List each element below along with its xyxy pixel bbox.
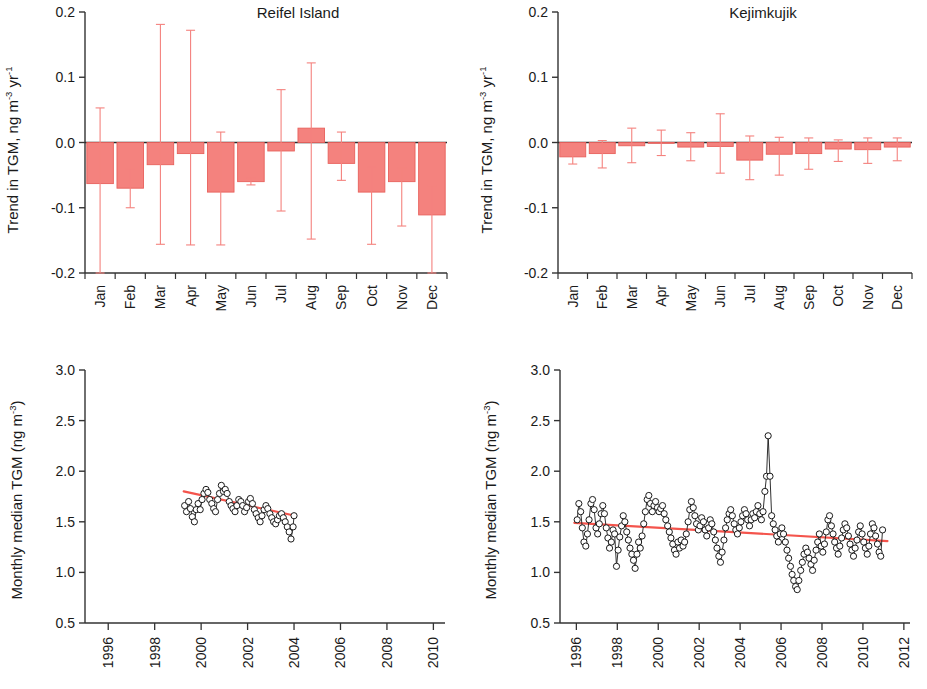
data-point xyxy=(682,539,688,545)
y-tick-label: 0.2 xyxy=(56,4,76,20)
data-point xyxy=(859,531,865,537)
y-tick-label: 0.1 xyxy=(529,69,549,85)
month-label-feb: Feb xyxy=(122,285,138,309)
figure-root: Reifel Island Trend in TGM, ng m-3 yr-1 … xyxy=(0,0,927,689)
reifel-ylabel-group: Trend in TGM, ng m-3 yr-1 xyxy=(3,67,21,234)
y-tick-label: -0.1 xyxy=(51,200,75,216)
kejimkujik-error-bars xyxy=(568,114,902,180)
data-point xyxy=(743,511,749,517)
month-label-oct: Oct xyxy=(830,285,846,307)
kejimkujik-ts-y-axis-label: Monthly median TGM (ng m-3) xyxy=(481,400,499,599)
data-point xyxy=(620,513,626,519)
reifel-ts-y-label-close: ) xyxy=(8,400,25,405)
month-label-mar: Mar xyxy=(624,285,640,309)
data-point xyxy=(576,500,582,506)
data-point xyxy=(613,563,619,569)
keji-ts-series xyxy=(574,433,886,593)
year-label-2000: 2000 xyxy=(193,637,209,668)
month-label-jul: Jul xyxy=(742,285,758,303)
data-point xyxy=(586,517,592,523)
data-point xyxy=(871,525,877,531)
year-label-2006: 2006 xyxy=(332,637,348,668)
data-point xyxy=(874,541,880,547)
y-tick-label: 0.1 xyxy=(56,69,76,85)
y-tick-label: 0.0 xyxy=(56,135,76,151)
kejimkujik-month-labels: JanFebMarAprMayJunJulAugSepOctNovDec xyxy=(565,285,906,312)
data-point xyxy=(736,525,742,531)
month-label-jul: Jul xyxy=(273,285,289,303)
reifel-ts-axes xyxy=(79,370,445,630)
data-point xyxy=(259,513,265,519)
data-point xyxy=(199,496,205,502)
panel-kejimkujik-trend-bar: Kejimkujik Trend in TGM, ng m-3 yr-1 Jan… xyxy=(470,0,927,340)
data-point xyxy=(779,525,785,531)
kejimkujik-y-axis-label: Trend in TGM, ng m-3 yr-1 xyxy=(477,67,495,234)
year-label-2004: 2004 xyxy=(286,637,302,668)
reifel-y-axis-label: Trend in TGM, ng m-3 yr-1 xyxy=(3,67,21,234)
data-point xyxy=(603,525,609,531)
data-point xyxy=(758,517,764,523)
data-point xyxy=(729,513,735,519)
data-point xyxy=(711,529,717,535)
data-point xyxy=(288,536,294,542)
data-point xyxy=(864,551,870,557)
month-label-jan: Jan xyxy=(565,285,581,308)
panel-kejimkujik-timeseries: Monthly median TGM (ng m-3) 199619982000… xyxy=(470,340,927,689)
reifel-trend-svg: Reifel Island Trend in TGM, ng m-3 yr-1 … xyxy=(0,0,470,340)
keji-ts-y-label-main: Monthly median TGM (ng m xyxy=(482,414,499,600)
y-tick-label: 2.5 xyxy=(531,413,551,429)
data-point xyxy=(798,567,804,573)
data-point xyxy=(632,565,638,571)
month-label-may: May xyxy=(213,285,229,311)
data-point xyxy=(712,537,718,543)
data-point xyxy=(212,509,218,515)
year-label-1996: 1996 xyxy=(100,637,116,668)
data-point xyxy=(249,500,255,506)
data-point xyxy=(765,433,771,439)
reifel-y-tick-labels: -0.2-0.10.00.10.2 xyxy=(51,4,75,281)
data-point xyxy=(794,587,800,593)
reifel-ts-x-tick-labels: 19961998200020022004200620082010 xyxy=(100,637,441,668)
data-point xyxy=(782,539,788,545)
kejimkujik-ylabel-group: Trend in TGM, ng m-3 yr-1 xyxy=(477,67,495,234)
data-point xyxy=(665,523,671,529)
data-point xyxy=(205,489,211,495)
data-point xyxy=(630,557,636,563)
year-label-2008: 2008 xyxy=(379,637,395,668)
data-point xyxy=(224,490,230,496)
data-point xyxy=(775,539,781,545)
data-point xyxy=(769,513,775,519)
data-point xyxy=(828,523,834,529)
month-label-nov: Nov xyxy=(860,285,876,310)
data-point xyxy=(839,535,845,541)
reifel-y-axis-label-main: Trend in TGM, ng m xyxy=(4,100,21,233)
data-point xyxy=(821,541,827,547)
month-label-sep: Sep xyxy=(801,285,817,310)
data-point xyxy=(786,555,792,561)
data-point xyxy=(187,506,193,512)
data-point xyxy=(257,519,263,525)
y-tick-label: -0.1 xyxy=(524,200,548,216)
data-point xyxy=(780,531,786,537)
year-label-2000: 2000 xyxy=(650,637,666,668)
year-label-2010: 2010 xyxy=(855,637,871,668)
data-point xyxy=(722,525,728,531)
year-label-2010: 2010 xyxy=(425,637,441,668)
data-point xyxy=(579,525,585,531)
data-point xyxy=(820,549,826,555)
data-point xyxy=(634,551,640,557)
keji-ts-axes xyxy=(554,370,910,630)
reifel-month-labels: JanFebMarAprMayJunJulAugSepOctNovDec xyxy=(92,285,440,312)
year-label-2008: 2008 xyxy=(814,637,830,668)
data-point xyxy=(668,535,674,541)
data-point xyxy=(692,513,698,519)
data-point xyxy=(811,557,817,563)
month-label-may: May xyxy=(683,285,699,311)
kejimkujik-y-tick-labels: -0.2-0.10.00.10.2 xyxy=(524,4,548,281)
data-point xyxy=(879,527,885,533)
reifel-bars xyxy=(87,128,445,215)
y-tick-label: 0.5 xyxy=(56,615,76,631)
month-label-mar: Mar xyxy=(152,285,168,309)
data-point xyxy=(642,509,648,515)
data-point xyxy=(700,519,706,525)
